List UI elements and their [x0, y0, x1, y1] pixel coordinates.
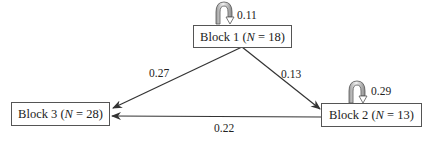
self-loop-block1-label: 0.11: [237, 9, 257, 21]
block-2-n-value: = 13): [384, 108, 414, 122]
block-1-label: Block 1 (: [200, 30, 247, 44]
block-2-node: Block 2 (N = 13): [321, 103, 422, 127]
edge-block1-block2-label: 0.13: [281, 68, 301, 80]
edge-block2-block3-label: 0.22: [214, 122, 234, 134]
block-3-n-value: = 28): [73, 107, 103, 121]
block-3-n-symbol: N: [65, 107, 73, 121]
edge-block1-block3: [113, 47, 242, 108]
self-loop-block1-icon: [216, 2, 234, 24]
block-2-n-symbol: N: [376, 108, 384, 122]
block-1-n-symbol: N: [247, 30, 255, 44]
edge-block1-block3-label: 0.27: [149, 67, 169, 79]
self-loop-block2-label: 0.29: [371, 85, 391, 97]
edge-block2-block3: [112, 116, 321, 117]
block-2-label: Block 2 (: [329, 108, 376, 122]
block-3-label: Block 3 (: [18, 107, 65, 121]
self-loop-block2-icon: [349, 81, 367, 103]
block-3-node: Block 3 (N = 28): [11, 102, 110, 126]
block-1-node: Block 1 (N = 18): [193, 25, 292, 48]
block-1-n-value: = 18): [255, 30, 285, 44]
